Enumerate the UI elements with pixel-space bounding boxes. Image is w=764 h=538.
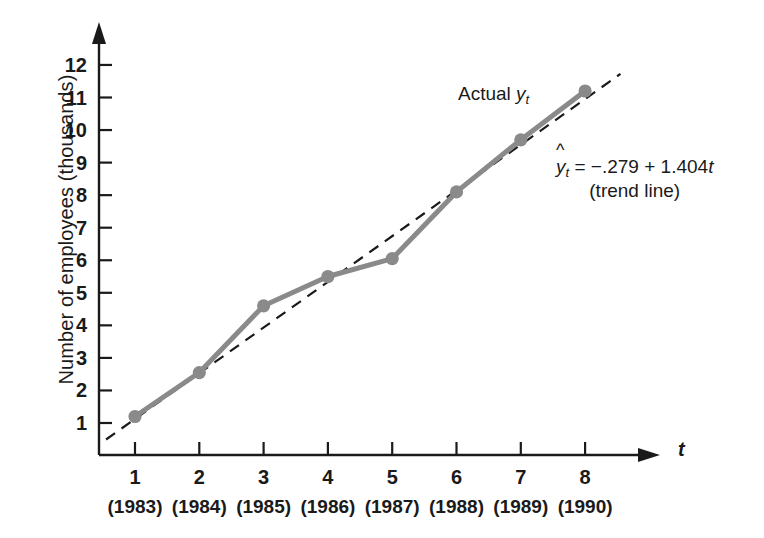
x-year-label: (1990) xyxy=(549,497,621,516)
hat-accent-icon: ^ xyxy=(556,141,565,159)
x-axis xyxy=(99,448,660,462)
y-tick-label: 1 xyxy=(47,413,87,433)
y-hat-subscript: t xyxy=(566,165,570,180)
x-tick-label: 6 xyxy=(427,467,487,487)
data-point-marker xyxy=(128,410,141,423)
y-axis-ticks xyxy=(99,65,112,423)
y-tick-label: 7 xyxy=(47,218,87,238)
data-point-marker xyxy=(193,366,206,379)
x-tick-label: 3 xyxy=(234,467,294,487)
data-point-marker xyxy=(514,133,527,146)
y-tick-label: 11 xyxy=(47,88,87,108)
x-year-label: (1985) xyxy=(228,497,300,516)
x-year-label: (1987) xyxy=(356,497,428,516)
y-tick-label: 9 xyxy=(47,153,87,173)
x-year-label: (1989) xyxy=(485,497,557,516)
x-year-label: (1986) xyxy=(292,497,364,516)
x-axis-ticks xyxy=(135,442,585,455)
x-year-label: (1988) xyxy=(421,497,493,516)
data-point-marker xyxy=(257,299,270,312)
actual-label-var: y xyxy=(516,83,526,104)
data-point-marker xyxy=(321,270,334,283)
equation-var: t xyxy=(708,156,713,177)
x-tick-label: 5 xyxy=(362,467,422,487)
x-tick-label: 1 xyxy=(105,467,165,487)
data-point-marker xyxy=(579,84,592,97)
equation-body: = −.279 + 1.404 xyxy=(569,156,708,177)
x-year-label: (1984) xyxy=(163,497,235,516)
trend-line-caption: (trend line) xyxy=(556,179,713,203)
x-tick-label: 7 xyxy=(491,467,551,487)
y-tick-label: 10 xyxy=(47,120,87,140)
x-tick-label: 4 xyxy=(298,467,358,487)
actual-series-markers xyxy=(128,84,591,423)
y-tick-label: 8 xyxy=(47,185,87,205)
x-year-label: (1983) xyxy=(99,497,171,516)
trend-line-equation: ^yt = −.279 + 1.404t (trend line) xyxy=(556,155,713,203)
actual-label-prefix: Actual xyxy=(458,83,516,104)
y-tick-label: 2 xyxy=(47,380,87,400)
data-point-marker xyxy=(386,252,399,265)
x-axis-symbol: t xyxy=(678,438,685,461)
y-tick-label: 4 xyxy=(47,315,87,335)
data-point-marker xyxy=(450,185,463,198)
x-tick-label: 2 xyxy=(169,467,229,487)
y-hat-symbol: ^y xyxy=(556,155,566,179)
y-tick-label: 12 xyxy=(47,55,87,75)
y-tick-label: 5 xyxy=(47,283,87,303)
y-tick-label: 3 xyxy=(47,348,87,368)
chart-canvas xyxy=(0,0,764,538)
x-tick-label: 8 xyxy=(555,467,615,487)
chart-figure: Number of employees (thousands) 12345678… xyxy=(0,0,764,538)
y-tick-label: 6 xyxy=(47,250,87,270)
actual-label-subscript: t xyxy=(526,92,530,107)
actual-series-label: Actual yt xyxy=(458,82,529,106)
